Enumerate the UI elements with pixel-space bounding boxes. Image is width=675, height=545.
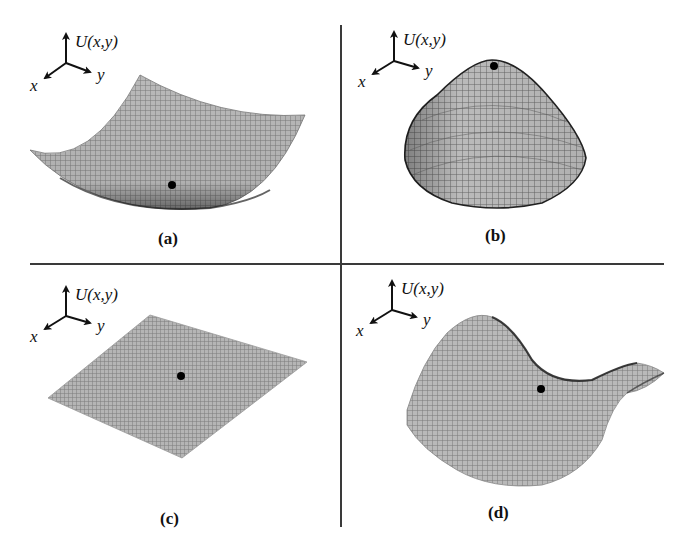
panel-label: (c) bbox=[160, 510, 179, 527]
saddle-point-marker bbox=[537, 385, 545, 393]
panel-b-maximum: U(x,y) y x (b) bbox=[342, 0, 675, 263]
panel-label: (b) bbox=[485, 227, 506, 244]
flat-point-marker bbox=[177, 372, 185, 380]
panel-label: (a) bbox=[158, 230, 178, 247]
panel-label: (d) bbox=[488, 504, 509, 521]
panel-d-saddle: U(x,y) y x (d) bbox=[342, 265, 675, 545]
flat-surface bbox=[0, 265, 340, 545]
panel-a-minimum: U(x,y) y x (a) bbox=[0, 0, 340, 263]
dome-surface bbox=[342, 0, 675, 263]
bowl-surface bbox=[0, 0, 340, 263]
minimum-point-marker bbox=[168, 181, 176, 189]
maximum-point-marker bbox=[490, 62, 498, 70]
panel-c-flat: U(x,y) y x (c) bbox=[0, 265, 340, 545]
